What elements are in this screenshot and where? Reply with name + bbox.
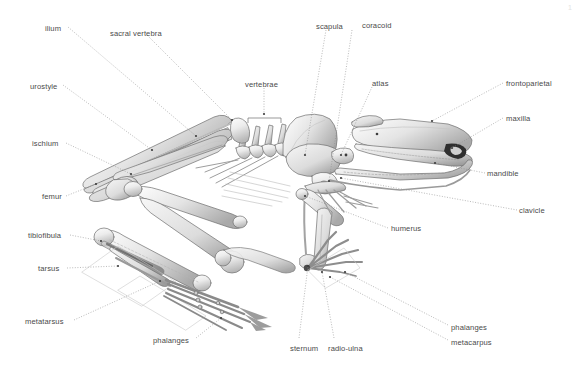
- label-metacarpus: metacarpus: [451, 338, 492, 347]
- vertebra-unit: [262, 125, 276, 157]
- leader-phalanges-fore: [345, 272, 448, 325]
- leader-tibiofibula-endpoint: [100, 240, 102, 242]
- leader-frontoparietal: [432, 83, 503, 121]
- skeleton-bones: [82, 114, 473, 331]
- leader-tarsus: [67, 266, 118, 268]
- leader-scapula-endpoint: [304, 154, 306, 156]
- label-phalanges-fore: phalanges: [451, 323, 487, 332]
- label-atlas: atlas: [372, 79, 389, 88]
- label-humerus: humerus: [391, 224, 421, 233]
- leader-vertebrae-endpoint: [263, 113, 265, 115]
- leader-coracoid-endpoint: [328, 180, 330, 182]
- label-maxilla: maxilla: [506, 114, 530, 123]
- vertebra-unit: [249, 126, 263, 158]
- leader-mandible-endpoint: [434, 162, 436, 164]
- leader-clavicle: [341, 178, 517, 210]
- leader-humerus-endpoint: [304, 195, 306, 197]
- label-sacral-vertebra: sacral vertebra: [110, 29, 162, 38]
- skeleton-illustration: [0, 0, 576, 373]
- leader-maxilla-endpoint: [451, 147, 453, 149]
- vertebrae-bracket: [248, 118, 281, 123]
- label-femur: femur: [42, 192, 62, 201]
- leader-atlas-endpoint: [340, 154, 342, 156]
- label-sternum: sternum: [290, 344, 318, 353]
- metatarsus-phalanges-hind: [164, 280, 272, 331]
- leader-femur-endpoint: [95, 183, 97, 185]
- leader-tarsus-endpoint: [117, 265, 119, 267]
- label-tibiofibula: tibiofibula: [28, 231, 61, 240]
- label-urostyle: urostyle: [30, 82, 57, 91]
- metacarpus-phalanges-fore: [304, 232, 362, 288]
- leader-metacarpus: [330, 277, 448, 340]
- frog-skeleton-figure: iliumsacral vertebrascapulacoracoidurost…: [0, 0, 576, 373]
- leader-radio-ulna: [322, 272, 334, 338]
- label-mandible: mandible: [487, 169, 519, 178]
- ilium-bone: [83, 115, 233, 196]
- label-radio-ulna: radio-ulna: [328, 344, 363, 353]
- leader-phalanges-fore-endpoint: [344, 271, 346, 273]
- leader-frontoparietal-endpoint: [431, 120, 433, 122]
- leader-phalanges-hind-endpoint: [220, 317, 222, 319]
- leader-metatarsus: [74, 281, 160, 320]
- leader-sacral-vertebra-endpoint: [231, 119, 233, 121]
- leader-sacral-vertebra: [147, 35, 232, 120]
- label-coracoid: coracoid: [362, 21, 392, 30]
- label-ischium: ischium: [32, 139, 58, 148]
- leader-metatarsus-endpoint: [159, 280, 161, 282]
- background-rays: [222, 172, 290, 206]
- leader-ilium: [68, 27, 196, 136]
- leader-metacarpus-endpoint: [329, 276, 331, 278]
- label-metatarsus: metatarsus: [25, 317, 64, 326]
- sacral-vertebra-bone: [230, 118, 249, 143]
- label-tarsus: tarsus: [38, 264, 59, 273]
- leader-radio-ulna-endpoint: [321, 271, 323, 273]
- leader-ilium-endpoint: [195, 135, 197, 137]
- page-number: 1: [568, 4, 572, 11]
- leader-clavicle-endpoint: [340, 177, 342, 179]
- label-ilium: ilium: [45, 24, 61, 33]
- suprascapula-bone: [286, 144, 341, 177]
- leader-urostyle-endpoint: [151, 149, 153, 151]
- label-scapula: scapula: [316, 22, 343, 31]
- vertebrae-bracket-path: [248, 118, 281, 123]
- leader-sternum: [299, 266, 308, 338]
- label-frontoparietal: frontoparietal: [506, 79, 552, 88]
- atlas-bone: [332, 148, 354, 164]
- leader-urostyle: [63, 85, 152, 150]
- label-vertebrae: vertebrae: [245, 80, 278, 89]
- leader-sternum-endpoint: [307, 265, 309, 267]
- label-phalanges-hind: phalanges: [153, 336, 189, 345]
- leader-ischium-endpoint: [130, 173, 132, 175]
- label-clavicle: clavicle: [519, 206, 545, 215]
